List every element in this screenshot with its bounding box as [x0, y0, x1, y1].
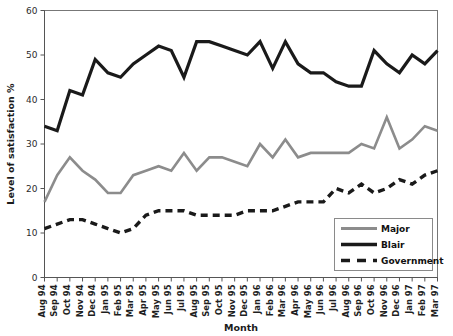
x-axis-tick-label: May 95 [151, 284, 161, 318]
y-axis-tick-label: 40 [26, 95, 38, 105]
x-axis-tick-label: May 96 [303, 284, 313, 318]
x-axis-tick-label: Aug 95 [189, 284, 199, 317]
chart-legend: Major Blair Government [335, 219, 445, 271]
x-axis-tick-label: Mar 95 [125, 284, 135, 317]
x-axis-tick-label: Dec 94 [87, 284, 97, 316]
x-axis-tick-label: Jun 95 [163, 284, 173, 315]
series-line-blair [45, 42, 438, 131]
y-axis: 0102030405060 [26, 6, 44, 283]
x-axis-tick-label: Apr 95 [138, 284, 148, 315]
legend-label-blair: Blair [381, 240, 405, 250]
x-axis-tick-label: Dec 95 [239, 284, 249, 316]
y-axis-tick-label: 50 [26, 50, 38, 60]
x-axis-tick-label: Mar 96 [277, 284, 287, 317]
x-axis: Aug 94Sep 94Oct 94Nov 94Dec 94Jan 95Feb … [37, 278, 440, 319]
series-line-major [45, 117, 438, 202]
x-axis-tick-label: Feb 97 [417, 284, 427, 316]
x-axis-tick-label: Feb 96 [265, 284, 275, 316]
y-axis-title: Level of satisfaction % [5, 83, 16, 205]
legend-label-major: Major [381, 224, 410, 234]
x-axis-tick-label: Jan 95 [100, 284, 110, 314]
x-axis-tick-label: Aug 96 [341, 284, 351, 317]
x-axis-tick-label: Sep 95 [201, 284, 211, 316]
x-axis-tick-label: Jun 96 [315, 284, 325, 315]
x-axis-tick-label: Jan 96 [252, 284, 262, 314]
chart-container: 0102030405060 Aug 94Sep 94Oct 94Nov 94De… [0, 0, 453, 336]
x-axis-tick-label: Nov 94 [75, 284, 85, 317]
y-axis-tick-label: 30 [26, 139, 38, 149]
satisfaction-line-chart: 0102030405060 Aug 94Sep 94Oct 94Nov 94De… [0, 0, 453, 336]
y-axis-tick-label: 60 [26, 6, 38, 16]
x-axis-tick-label: Mar 97 [430, 284, 440, 317]
y-axis-tick-label: 0 [32, 273, 38, 283]
x-axis-tick-label: Nov 96 [379, 284, 389, 317]
x-axis-tick-label: Dec 96 [391, 284, 401, 316]
x-axis-tick-label: Sep 94 [49, 284, 59, 316]
x-axis-tick-label: Apr 96 [290, 284, 300, 315]
x-axis-tick-label: Jul 96 [328, 284, 338, 312]
x-axis-tick-label: Oct 96 [366, 284, 376, 315]
x-axis-tick-label: Oct 94 [62, 284, 72, 315]
x-axis-tick-label: Aug 94 [37, 284, 47, 317]
y-axis-tick-label: 10 [26, 228, 38, 238]
x-axis-tick-label: Jul 95 [176, 284, 186, 312]
x-axis-tick-label: Sep 96 [353, 284, 363, 316]
legend-label-government: Government [381, 256, 444, 266]
x-axis-title: Month [224, 322, 258, 333]
x-axis-tick-label: Oct 95 [214, 284, 224, 315]
y-axis-tick-label: 20 [26, 184, 38, 194]
x-axis-tick-label: Nov 95 [227, 284, 237, 317]
data-series-group [45, 42, 438, 233]
x-axis-tick-label: Feb 95 [113, 284, 123, 316]
x-axis-tick-label: Jan 97 [404, 284, 414, 314]
